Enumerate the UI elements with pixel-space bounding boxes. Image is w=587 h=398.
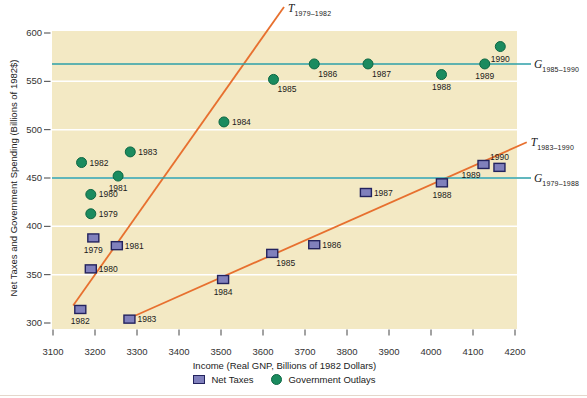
legend-item-net-taxes: Net Taxes <box>193 374 253 385</box>
government-outlays-circle-icon <box>271 374 282 385</box>
government-outlays-point-1989 <box>480 59 490 69</box>
net-taxes-square-icon <box>193 375 205 384</box>
government-outlays-year-label-1990: 1990 <box>491 54 510 64</box>
government-outlays-point-1987 <box>363 59 373 69</box>
y-tick-label-450: 450 <box>26 172 42 183</box>
line-label-G-1979-1988: G1979–1988 <box>534 170 579 191</box>
government-outlays-year-label-1985: 1985 <box>278 84 297 94</box>
net-taxes-point-1984 <box>218 276 229 284</box>
net-taxes-point-1986 <box>309 241 320 249</box>
government-outlays-year-label-1981: 1981 <box>109 183 128 193</box>
net-taxes-year-label-1979: 1979 <box>84 245 103 255</box>
x-tick-label-3600: 3600 <box>252 346 273 357</box>
government-outlays-year-label-1986: 1986 <box>318 69 337 79</box>
x-tick-label-3100: 3100 <box>42 346 63 357</box>
caption-divider <box>0 395 587 396</box>
line-label-T-1983-1990: T1983–1990 <box>531 134 574 155</box>
net-taxes-year-label-1981: 1981 <box>125 241 144 251</box>
government-outlays-year-label-1983: 1983 <box>138 147 157 157</box>
government-outlays-point-1979 <box>86 209 96 219</box>
y-tick-label-350: 350 <box>26 269 42 280</box>
y-tick-label-400: 400 <box>26 220 42 231</box>
net-taxes-point-1985 <box>267 249 278 257</box>
x-tick-label-3300: 3300 <box>126 346 147 357</box>
x-tick-label-4000: 4000 <box>420 346 441 357</box>
fiscal-policy-chart: 1979198019811982198319841985198619871988… <box>0 0 587 398</box>
x-tick-label-3900: 3900 <box>378 346 399 357</box>
x-axis-title: Income (Real GNP, Billions of 1982 Dolla… <box>52 360 517 371</box>
line-label-G-1985-1990: G1985–1990 <box>534 56 579 77</box>
net-taxes-point-1987 <box>360 189 371 197</box>
x-tick-label-3400: 3400 <box>168 346 189 357</box>
government-outlays-year-label-1982: 1982 <box>90 158 109 168</box>
legend-item-government-outlays: Government Outlays <box>271 374 375 385</box>
net-taxes-year-label-1990: 1990 <box>490 152 509 162</box>
line-label-T-1979-1982: T1979–1982 <box>288 0 331 21</box>
government-outlays-point-1983 <box>125 147 135 157</box>
net-taxes-year-label-1986: 1986 <box>322 240 341 250</box>
net-taxes-point-1983 <box>124 315 135 323</box>
y-axis-title: Net Taxes and Government Spending (Billi… <box>8 60 19 297</box>
net-taxes-point-1981 <box>111 242 122 250</box>
x-tick-label-3500: 3500 <box>210 346 231 357</box>
government-outlays-point-1981 <box>113 171 123 181</box>
net-taxes-point-1988 <box>436 179 447 187</box>
net-taxes-year-label-1987: 1987 <box>374 188 393 198</box>
government-outlays-point-1988 <box>437 70 447 80</box>
net-taxes-year-label-1982: 1982 <box>71 316 90 326</box>
government-outlays-point-1980 <box>86 189 96 199</box>
net-taxes-point-1979 <box>88 234 99 242</box>
government-outlays-point-1984 <box>219 117 229 127</box>
y-tick-label-500: 500 <box>26 124 42 135</box>
net-taxes-year-label-1980: 1980 <box>99 264 118 274</box>
government-outlays-year-label-1987: 1987 <box>372 69 391 79</box>
net-taxes-point-1982 <box>75 305 86 313</box>
legend-label-net-taxes: Net Taxes <box>211 374 253 385</box>
government-outlays-point-1990 <box>495 42 505 52</box>
y-tick-label-600: 600 <box>26 27 42 38</box>
government-outlays-point-1986 <box>309 59 319 69</box>
x-tick-label-4100: 4100 <box>462 346 483 357</box>
government-outlays-year-label-1979: 1979 <box>99 209 118 219</box>
plot-area: 1979198019811982198319841985198619871988… <box>0 0 587 398</box>
net-taxes-year-label-1985: 1985 <box>276 258 295 268</box>
y-tick-label-300: 300 <box>26 317 42 328</box>
net-taxes-year-label-1989: 1989 <box>462 170 481 180</box>
net-taxes-year-label-1984: 1984 <box>214 287 233 297</box>
legend-label-government-outlays: Government Outlays <box>288 374 375 385</box>
government-outlays-point-1982 <box>77 158 87 168</box>
x-tick-label-3800: 3800 <box>336 346 357 357</box>
y-tick-label-550: 550 <box>26 75 42 86</box>
x-tick-label-3700: 3700 <box>294 346 315 357</box>
government-outlays-point-1985 <box>269 74 279 84</box>
net-taxes-year-label-1988: 1988 <box>432 190 451 200</box>
x-tick-label-4200: 4200 <box>504 346 525 357</box>
net-taxes-point-1989 <box>478 160 489 168</box>
government-outlays-year-label-1984: 1984 <box>232 117 251 127</box>
net-taxes-point-1990 <box>494 163 505 171</box>
government-outlays-year-label-1989: 1989 <box>475 71 494 81</box>
x-tick-label-3200: 3200 <box>84 346 105 357</box>
net-taxes-year-label-1983: 1983 <box>137 314 156 324</box>
net-taxes-point-1980 <box>85 265 96 273</box>
legend: Net Taxes Government Outlays <box>52 374 517 385</box>
government-outlays-year-label-1988: 1988 <box>432 82 451 92</box>
